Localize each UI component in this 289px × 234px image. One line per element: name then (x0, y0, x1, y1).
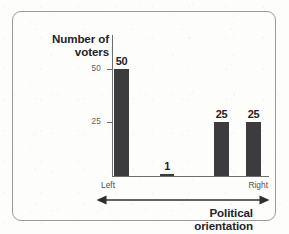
x-axis-title: Political orientation (103, 206, 253, 233)
y-axis-title-line-1: Number of (52, 32, 109, 45)
bar-value-3: 25 (207, 108, 237, 120)
figure-page: Number of voters 50 25 50 1 25 25 Left R (0, 0, 289, 234)
bar-4 (246, 122, 261, 176)
bar-3 (214, 122, 229, 176)
bar-chart: Number of voters 50 25 50 1 25 25 Left R (13, 12, 275, 220)
bar-1 (114, 69, 129, 176)
bar-value-4: 25 (239, 108, 269, 120)
bar-value-2: 1 (152, 160, 182, 172)
y-tick-label-50: 50 (75, 64, 101, 73)
x-axis-title-line-1: Political (209, 206, 253, 219)
x-axis-line (112, 176, 269, 177)
x-axis-title-line-2: orientation (103, 219, 253, 232)
x-tick-label-right: Right (228, 180, 268, 190)
y-tick-mark-25 (107, 122, 113, 123)
bar-value-1: 50 (107, 55, 137, 67)
figure-frame: Number of voters 50 25 50 1 25 25 Left R (12, 11, 276, 221)
y-axis-title: Number of voters (27, 32, 109, 59)
bar-2 (160, 174, 174, 176)
y-tick-mark-50 (107, 69, 113, 70)
y-tick-label-25: 25 (75, 117, 101, 126)
y-axis-title-line-2: voters (27, 45, 109, 58)
x-tick-label-left: Left (101, 180, 141, 190)
